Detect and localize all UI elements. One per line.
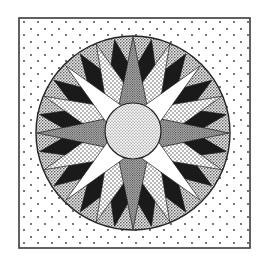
quilt-block-illustration (0, 0, 266, 258)
compass-center-circle (105, 103, 161, 159)
